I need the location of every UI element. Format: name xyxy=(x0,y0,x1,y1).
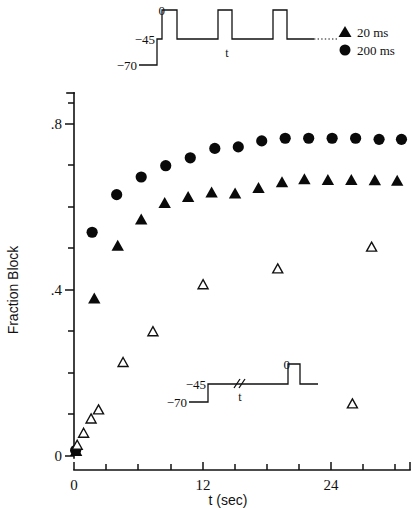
data-point xyxy=(111,189,122,200)
inset-bottom-single-pulse: 0 −45 −70 t xyxy=(167,357,318,410)
data-point xyxy=(86,414,96,423)
data-point xyxy=(327,133,338,144)
data-point xyxy=(391,175,403,186)
inset-bottom-trace xyxy=(189,364,318,402)
inset-top-repetitive-pulse: 0 −45 −70 t xyxy=(117,3,337,73)
data-point xyxy=(229,188,241,199)
y-axis-title: Fraction Block xyxy=(5,245,21,335)
legend-label-200ms: 200 ms xyxy=(357,43,395,58)
legend-marker-filled-triangle xyxy=(339,26,352,37)
data-point xyxy=(256,135,267,146)
data-point xyxy=(136,171,147,182)
figure-root: 0 −45 −70 t 20 ms 200 ms xyxy=(0,0,415,508)
y-tick-label-08: .8 xyxy=(51,116,62,132)
data-point xyxy=(185,152,196,163)
x-axis-title: t (sec) xyxy=(209,492,248,508)
data-point xyxy=(367,242,377,251)
data-point xyxy=(158,197,170,208)
series-20-ms xyxy=(70,173,403,456)
inset-top-level-70: −70 xyxy=(117,58,137,73)
data-point xyxy=(233,141,244,152)
x-tick-label-24: 24 xyxy=(324,477,340,493)
data-series-layer xyxy=(70,133,407,456)
data-point xyxy=(373,134,384,145)
data-point xyxy=(205,186,217,197)
data-point xyxy=(350,133,361,144)
data-point xyxy=(369,174,381,185)
data-point xyxy=(396,134,407,145)
x-tick-label-0: 0 xyxy=(70,477,78,493)
data-point xyxy=(182,191,194,202)
data-point xyxy=(112,240,124,251)
series-recovery xyxy=(72,242,376,449)
legend: 20 ms 200 ms xyxy=(339,25,395,58)
inset-top-interval-label: t xyxy=(225,46,229,60)
data-point xyxy=(198,280,208,289)
y-tick-label-0: 0 xyxy=(55,448,63,464)
data-point xyxy=(94,405,104,414)
inset-top-level-0: 0 xyxy=(159,3,166,18)
data-point xyxy=(303,133,314,144)
data-point xyxy=(118,358,128,367)
data-point xyxy=(87,227,98,238)
inset-bottom-interval-label: t xyxy=(238,390,242,404)
data-point xyxy=(135,213,147,224)
data-point xyxy=(280,133,291,144)
data-point xyxy=(322,174,334,185)
data-point xyxy=(298,173,310,184)
x-tick-label-12: 12 xyxy=(196,477,211,493)
data-point xyxy=(276,176,288,187)
axis-y: 0 .4 .8 Fraction Block xyxy=(5,93,74,464)
data-point xyxy=(79,428,89,437)
inset-bottom-level-0: 0 xyxy=(284,357,291,372)
legend-label-20ms: 20 ms xyxy=(357,25,388,40)
y-tick-label-04: .4 xyxy=(51,282,63,298)
inset-bottom-level-45: −45 xyxy=(186,377,206,392)
data-point xyxy=(160,160,171,171)
data-point xyxy=(345,174,357,185)
axis-x: 0 12 24 t (sec) xyxy=(70,462,410,508)
data-point xyxy=(88,292,100,303)
data-point xyxy=(209,143,220,154)
chart-canvas: 0 −45 −70 t 20 ms 200 ms xyxy=(0,0,415,508)
data-point xyxy=(252,182,264,193)
inset-top-level-45: −45 xyxy=(135,32,155,47)
data-point xyxy=(347,399,357,408)
inset-bottom-level-70: −70 xyxy=(167,395,187,410)
data-point xyxy=(148,327,158,336)
legend-marker-filled-circle xyxy=(340,45,351,56)
data-point xyxy=(273,264,283,273)
